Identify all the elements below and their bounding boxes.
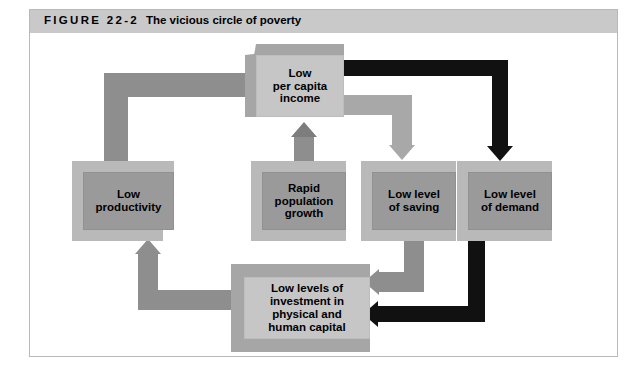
arrow-segment-horizontal: [340, 60, 508, 76]
arrowhead-up: [135, 239, 161, 254]
figure-number: FIGURE 22-2: [44, 14, 139, 26]
arrowhead-down: [487, 146, 513, 161]
box-bevel-top-band: [231, 264, 370, 277]
label-line-2: productivity: [96, 201, 162, 213]
box-bevel-left-band: [245, 55, 256, 117]
box-bevel-bottom-band: [457, 230, 552, 241]
node-rapid-population-growth[interactable]: Rapid population growth: [262, 172, 346, 230]
box-bevel-top-band: [361, 161, 456, 172]
label-line-3: growth: [285, 207, 323, 219]
label-line-1: Rapid: [288, 182, 320, 194]
arrowhead-up: [291, 122, 317, 137]
arrow-segment-vertical: [138, 252, 158, 310]
label-line-4: human capital: [268, 321, 345, 333]
node-low-level-of-saving[interactable]: Low level of saving: [372, 172, 456, 230]
node-label: Low level of saving: [372, 172, 456, 230]
box-bevel-bottom-band: [361, 230, 456, 241]
node-label: Low level of demand: [468, 172, 552, 230]
node-low-levels-of-investment[interactable]: Low levels of investment in physical and…: [244, 277, 370, 339]
label-line-1: Low: [288, 67, 311, 79]
label-line-2: investment in: [270, 295, 344, 307]
arrowhead-down: [389, 145, 415, 160]
arrow-segment-horizontal: [104, 73, 254, 97]
label-line-1: Low levels of: [271, 282, 343, 294]
label-line-3: physical and: [272, 308, 342, 320]
box-bevel-bottom-band: [231, 339, 370, 352]
box-bevel-bottom-band: [72, 230, 163, 241]
label-line-2: of saving: [389, 201, 439, 213]
node-label: Rapid population growth: [262, 172, 346, 230]
box-bevel-top-band: [72, 161, 174, 172]
arrow-segment-horizontal: [376, 306, 485, 322]
box-bevel-top-band: [251, 161, 346, 172]
node-low-per-capita-income[interactable]: Low per capita income: [256, 55, 344, 117]
node-label: Low per capita income: [256, 55, 344, 117]
box-bevel-bottom-band: [251, 230, 346, 241]
node-label: Low levels of investment in physical and…: [244, 277, 370, 339]
box-bevel-left-band: [251, 161, 262, 230]
box-bevel-left-band: [231, 264, 244, 339]
figure-root: FIGURE 22-2The vicious circle of poverty: [0, 0, 644, 368]
figure-title: The vicious circle of poverty: [146, 14, 301, 26]
box-bevel-top-band: [256, 44, 344, 55]
box-bevel-left-band: [72, 161, 83, 230]
arrow-segment-horizontal: [378, 272, 424, 292]
arrow-segment-vertical: [392, 95, 412, 147]
box-bevel-left-band: [457, 161, 468, 230]
label-line-2: of demand: [481, 201, 539, 213]
label-line-3: income: [280, 92, 320, 104]
label-line-1: Low: [117, 188, 140, 200]
arrow-segment-vertical: [492, 60, 508, 148]
label-line-2: population: [275, 195, 334, 207]
box-bevel-left-band: [361, 161, 372, 230]
figure-header-band: FIGURE 22-2The vicious circle of poverty: [30, 10, 617, 33]
node-label: Low productivity: [83, 172, 174, 230]
label-line-2: per capita: [273, 80, 327, 92]
label-line-1: Low level: [388, 188, 440, 200]
node-low-level-of-demand[interactable]: Low level of demand: [468, 172, 552, 230]
figure-header-text: FIGURE 22-2The vicious circle of poverty: [44, 14, 301, 26]
label-line-1: Low level: [484, 188, 536, 200]
node-low-productivity[interactable]: Low productivity: [83, 172, 174, 230]
box-bevel-top-band: [457, 161, 552, 172]
